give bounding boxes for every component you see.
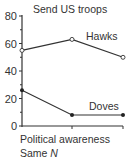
n-symbol: N bbox=[50, 147, 58, 159]
hawks-line bbox=[22, 39, 123, 57]
line-chart: 80 60 40 20 0 Send US troops Hawks Doves… bbox=[0, 0, 131, 167]
y-tick-label-80: 80 bbox=[5, 10, 17, 22]
same-prefix: Same bbox=[20, 147, 50, 159]
y-tick-label-60: 60 bbox=[5, 38, 17, 50]
y-tick-label-0: 0 bbox=[11, 120, 17, 132]
doves-label: Doves bbox=[89, 100, 119, 112]
chart-title: Send US troops bbox=[33, 3, 107, 15]
hawks-label: Hawks bbox=[86, 30, 118, 42]
y-tick-label-20: 20 bbox=[5, 93, 17, 105]
x-axis-label: Political awareness bbox=[20, 133, 110, 145]
y-tick-label-40: 40 bbox=[5, 65, 17, 77]
x-axis-sublabel: Same N bbox=[20, 147, 58, 159]
